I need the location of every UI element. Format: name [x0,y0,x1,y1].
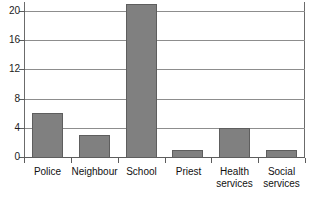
gridline [24,69,305,70]
x-axis-tick-label: Neighbour [71,166,118,178]
bar [266,150,297,158]
gridline [24,11,305,12]
gridline [24,128,305,129]
plot-right-border [304,2,305,158]
x-axis-tick-label-line: Priest [165,166,212,178]
y-axis-tick-label: 12 [9,64,20,74]
x-axis-tick-label-line: Neighbour [71,166,118,178]
x-axis-tick-label-line: services [258,178,305,190]
x-axis-tick [258,158,259,163]
bar [219,128,250,158]
bar-chart: 048121620 PoliceNeighbourSchoolPriestHea… [0,0,319,205]
y-axis-line [24,2,25,158]
x-axis-tick-label: Healthservices [211,166,258,189]
y-axis-tick-label: 8 [14,94,20,104]
x-axis-tick-label: School [118,166,165,178]
gridline [24,40,305,41]
x-axis-tick-label-line: Police [24,166,71,178]
y-axis-tick-label: 20 [9,6,20,16]
bar [126,4,157,158]
x-axis-tick-label: Police [24,166,71,178]
x-axis-tick-label: Socialservices [258,166,305,189]
y-axis-tick-label: 4 [14,123,20,133]
x-axis-tick-label-line: School [118,166,165,178]
bar [79,135,110,158]
bar [32,113,63,158]
y-axis-tick-label: 16 [9,35,20,45]
gridline [24,99,305,100]
x-axis-tick-label: Priest [165,166,212,178]
x-axis-tick-label-line: Health [211,166,258,178]
bar [172,150,203,158]
x-axis-tick [71,158,72,163]
x-axis-tick [118,158,119,163]
x-axis-tick [165,158,166,163]
x-axis-tick-label-line: Social [258,166,305,178]
x-axis-tick-label-line: services [211,178,258,190]
x-axis-tick [211,158,212,163]
x-axis-tick [305,158,306,163]
y-axis-tick-label: 0 [14,152,20,162]
x-axis-tick [24,158,25,163]
